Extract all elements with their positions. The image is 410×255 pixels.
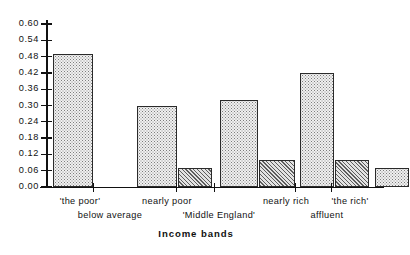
x-tick-mark <box>176 183 177 192</box>
bar <box>53 54 93 187</box>
x-tick-mark <box>93 183 94 192</box>
y-tick-label: 0.18 <box>19 132 39 142</box>
x-axis-label: 'Middle England' <box>159 210 279 220</box>
y-tick-label: 0.12 <box>19 148 39 158</box>
y-tick-label: 0.54 <box>19 34 39 44</box>
bar <box>137 106 177 188</box>
y-tick-label: 0.24 <box>19 116 39 126</box>
x-axis-line <box>40 187 384 188</box>
bar <box>259 160 295 187</box>
x-axis-label: 'the rich' <box>290 196 410 206</box>
bar <box>178 168 212 187</box>
y-tick-label: 0.36 <box>19 83 39 93</box>
y-tick-label: 0.06 <box>19 165 39 175</box>
bar <box>335 160 369 187</box>
bar <box>300 73 334 187</box>
x-tick-mark <box>214 183 215 192</box>
y-tick-label: 0.48 <box>19 51 39 61</box>
x-axis-label: nearly poor <box>107 196 227 206</box>
bar <box>220 100 258 187</box>
x-tick-mark <box>295 183 296 192</box>
x-axis-label: below average <box>50 210 170 220</box>
y-tick-label: 0.42 <box>19 67 39 77</box>
x-tick-mark <box>331 183 332 192</box>
bar <box>375 168 409 187</box>
plot-area <box>47 24 377 187</box>
x-axis-title: Income bands <box>0 228 392 239</box>
x-axis-label: affluent <box>267 210 387 220</box>
y-tick-label: 0.00 <box>19 181 39 191</box>
y-axis-tick-labels: 0.600.540.480.420.360.300.240.180.120.06… <box>0 0 39 255</box>
y-tick-label: 0.60 <box>19 18 39 28</box>
y-tick-label: 0.30 <box>19 100 39 110</box>
